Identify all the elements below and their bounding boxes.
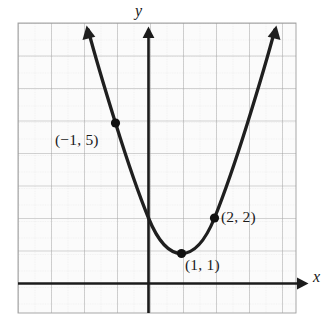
point-label-1-1: (1, 1) bbox=[185, 256, 220, 274]
main-grid bbox=[18, 23, 296, 313]
plot-point-2-2 bbox=[210, 213, 219, 222]
y-axis-label: y bbox=[135, 2, 142, 20]
x-axis-label: x bbox=[313, 268, 320, 286]
point-label-neg1-5: (−1, 5) bbox=[55, 131, 99, 149]
graph-figure: (−1, 5) (2, 2) (1, 1) y x bbox=[0, 0, 332, 336]
point-label-2-2: (2, 2) bbox=[221, 208, 256, 226]
plot-point-neg1-5 bbox=[111, 118, 120, 127]
coordinate-plane bbox=[0, 0, 332, 336]
